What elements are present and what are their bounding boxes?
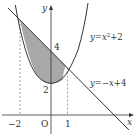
origin-label: O [41,119,48,129]
function-graph: y x O −2 1 4 2 y=x2+2 y=−x+4 [0,0,140,136]
tick-y-2: 2 [43,85,49,95]
line-curve [8,8,129,130]
tick-x-neg2: −2 [8,119,21,129]
y-axis-label: y [41,3,48,13]
y-axis-arrow-icon [49,5,53,10]
x-axis-label: x [127,117,132,127]
shaded-region [20,20,68,83]
tick-x-1: 1 [65,119,71,129]
parabola-equation-label: y=x2+2 [89,32,123,42]
line-equation-label: y=−x+4 [89,78,126,88]
tick-y-4: 4 [54,42,60,52]
